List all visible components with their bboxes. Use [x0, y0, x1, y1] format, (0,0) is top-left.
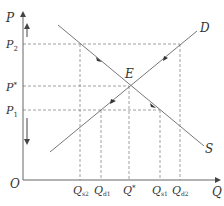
qs1-label: Qs1 [152, 184, 168, 197]
upward-curve-d [50, 31, 197, 152]
curve-d-label: D [199, 21, 210, 35]
equilibrium-label: E [124, 67, 134, 81]
curve-s-label: S [205, 142, 213, 156]
qd2-label: Qd2 [172, 184, 189, 197]
p2-label: P2 [5, 38, 18, 53]
qs2-label: Qs2 [73, 184, 89, 197]
y-axis-label: P [5, 11, 15, 25]
qstar-label: Q* [123, 184, 136, 197]
qd1-label: Qd1 [94, 184, 111, 197]
supply-demand-diagram: P Q O P2 P* P1 Qs2 Qd1 Q* Qs1 Qd2 D S E [0, 0, 224, 206]
p1-label: P1 [5, 104, 18, 119]
pstar-label: P* [5, 81, 17, 94]
arrow-on-d-upper [163, 56, 168, 61]
origin-label: O [10, 177, 20, 191]
x-axis-label: Q [212, 185, 222, 199]
